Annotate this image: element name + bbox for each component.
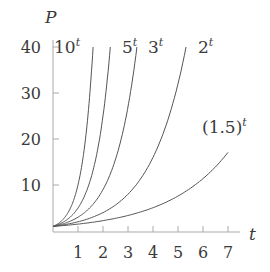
curve-5^t [53,47,110,226]
curve-(1.5)^t [53,152,228,226]
x-tick-label: 4 [148,243,158,262]
curve-2^t [53,47,186,226]
x-tick-label: 2 [98,243,108,262]
x-tick-label: 1 [73,243,83,262]
curve-label: 10t [54,36,81,57]
labels: 10t5t3t2t(1.5)t [54,36,247,137]
y-tick-label: 20 [21,130,41,149]
curve-label: 5t [122,36,138,57]
exponential-growth-chart: 123456710203040 10t5t3t2t(1.5)t P t [0,0,270,272]
x-tick-label: 3 [123,243,133,262]
curve-label: 2t [198,36,214,57]
curve-10^t [53,47,93,226]
x-tick-label: 6 [198,243,208,262]
x-tick-label: 7 [223,243,233,262]
y-tick-label: 40 [21,38,41,57]
x-axis-label: t [249,224,256,244]
y-tick-label: 30 [21,84,41,103]
y-axis-label: P [44,7,57,27]
curve-label: 3t [148,36,164,57]
curve-3^t [53,47,137,226]
curve-label: (1.5)t [202,116,247,137]
y-tick-label: 10 [21,176,41,195]
x-tick-label: 5 [173,243,183,262]
